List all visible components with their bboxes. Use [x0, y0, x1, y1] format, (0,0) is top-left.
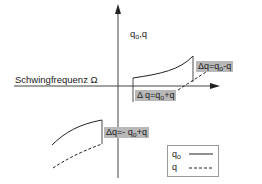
q0-curve-upper [133, 56, 193, 78]
x-axis-arrow-icon [210, 83, 220, 89]
annotation-mid: Δ q=qo+q [135, 90, 176, 101]
annotation-lower-left: Δq=- qo+q [104, 127, 149, 138]
y-axis-label: qo,q [130, 28, 147, 39]
q-curve-upper [178, 72, 206, 90]
legend: qo q [167, 145, 219, 177]
annotation-upper-right: Δq=qo-q [196, 61, 233, 72]
q-curve-lower [53, 144, 102, 168]
legend-item-q: q [172, 162, 177, 172]
y-axis-arrow-icon [115, 4, 121, 14]
x-axis-label: Schwingfrequenz Ω [15, 74, 98, 85]
q0-curve-lower [52, 120, 102, 145]
